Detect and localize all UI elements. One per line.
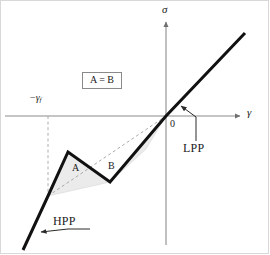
equal-area-box: A = B bbox=[82, 72, 122, 89]
region-b-label: B bbox=[108, 161, 115, 171]
y-axis-label: σ bbox=[162, 4, 167, 15]
x-tick-label-gamma-f: −γf bbox=[30, 93, 42, 104]
lpp-callout-label: LPP bbox=[183, 142, 204, 154]
figure-root: γ σ 0 −γf A = B A B HPP LPP bbox=[0, 0, 270, 255]
hpp-callout-label: HPP bbox=[53, 215, 76, 227]
hpp-callout-leader bbox=[41, 229, 90, 232]
region-a-label: A bbox=[72, 163, 79, 173]
x-axis-label: γ bbox=[247, 107, 251, 118]
tick-subscript-f: f bbox=[40, 96, 42, 104]
lpp-callout-leader bbox=[181, 106, 196, 141]
origin-label: 0 bbox=[170, 119, 175, 129]
stress-strain-plot bbox=[0, 0, 270, 255]
